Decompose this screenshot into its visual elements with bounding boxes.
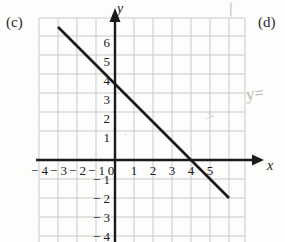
x-tick-5: 5: [203, 163, 217, 179]
y-tick--3: − 3: [85, 210, 110, 226]
x-tick--4: − 4: [30, 163, 49, 179]
y-tick-1: 1: [94, 130, 110, 146]
y-tick-6: 6: [94, 35, 110, 51]
y-tick-4: 4: [94, 73, 110, 89]
worksheet-page: (c) (d): [0, 0, 285, 242]
y-axis-label: y: [117, 1, 123, 17]
x-tick-3: 3: [165, 163, 179, 179]
y-tick--2: − 2: [85, 191, 110, 207]
coordinate-graph: [0, 0, 285, 242]
x-tick-2: 2: [146, 163, 160, 179]
x-axis-label: x: [267, 158, 273, 174]
y-tick-3: 3: [94, 92, 110, 108]
y-tick-2: 2: [94, 111, 110, 127]
y-tick--4: − 4: [85, 229, 110, 242]
x-tick-1: 1: [127, 163, 141, 179]
line-overlay-svg: [0, 0, 285, 242]
x-tick-4: 4: [184, 163, 198, 179]
x-tick--3: − 3: [49, 163, 68, 179]
y-tick--1: − 1: [85, 172, 110, 188]
y-tick-5: 5: [94, 54, 110, 70]
